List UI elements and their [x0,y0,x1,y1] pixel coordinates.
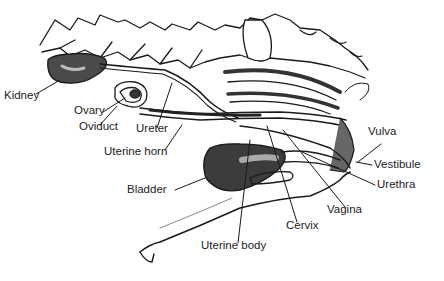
label-uterine-horn: Uterine horn [104,146,167,158]
label-bladder: Bladder [127,184,167,196]
ovary-illustration [115,82,147,108]
label-vulva: Vulva [368,126,396,138]
label-ureter: Ureter [136,123,168,135]
bladder-illustration [204,144,340,191]
label-uterine-body: Uterine body [201,240,266,252]
uterine-horn-illustration [140,108,346,126]
label-cervix: Cervix [286,220,319,232]
vulva-illustration [330,118,354,172]
anatomy-diagram: Kidney Ovary Oviduct Ureter Uterine horn… [0,0,444,281]
label-vagina: Vagina [327,204,362,216]
label-vestibule: Vestibule [374,159,421,171]
rectum-illustration [225,70,369,114]
label-ovary: Ovary [74,105,105,117]
label-kidney: Kidney [4,90,39,102]
label-urethra: Urethra [377,179,415,191]
kidney-illustration [48,54,107,84]
label-oviduct: Oviduct [79,121,118,133]
